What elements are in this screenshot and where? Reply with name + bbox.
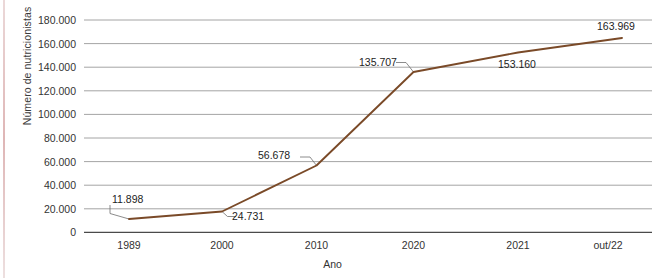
chart-container: Número de nutricionistas 180.000 160.000… [0, 0, 665, 278]
x-tick-label: 1989 [117, 239, 140, 251]
data-point-label: 56.678 [258, 149, 290, 161]
data-point-label: 163.969 [597, 20, 635, 32]
leader-lines [110, 63, 414, 220]
x-tick-label: out/22 [593, 239, 622, 251]
x-tick-label: 2021 [506, 239, 529, 251]
x-tick-label: 2020 [402, 239, 425, 251]
data-point-label: 11.898 [112, 193, 143, 205]
gridlines [84, 20, 652, 209]
data-point-label: 153.160 [498, 58, 536, 70]
x-tick-label: 2010 [305, 239, 328, 251]
x-axis-title: Ano [0, 258, 665, 270]
x-tick-label: 2000 [210, 239, 233, 251]
chart-plot-svg [0, 0, 665, 278]
data-point-label: 135.707 [359, 56, 397, 68]
data-point-label: 24.731 [232, 210, 264, 222]
